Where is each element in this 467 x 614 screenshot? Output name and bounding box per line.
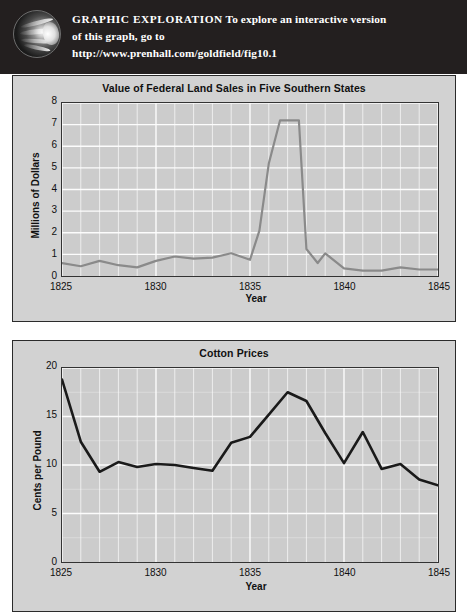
x-tick-cotton-prices-1840: 1840 (324, 567, 366, 578)
x-tick-cotton-prices-1835: 1835 (229, 567, 271, 578)
x-tick-cotton-prices-1845: 1845 (418, 567, 460, 578)
y-tick-land-sales-8: 8 (35, 95, 57, 106)
chart-panel-land-sales: Value of Federal Land Sales in Five Sout… (12, 75, 456, 322)
x-tick-land-sales-1840: 1840 (324, 281, 366, 292)
plot-area-land-sales (61, 102, 439, 277)
graphic-exploration-banner: GRAPHIC EXPLORATION To explore an intera… (0, 0, 467, 74)
y-tick-cotton-prices-10: 10 (35, 458, 57, 469)
y-tick-cotton-prices-0: 0 (35, 556, 57, 567)
y-tick-land-sales-0: 0 (35, 270, 57, 281)
x-tick-cotton-prices-1825: 1825 (40, 567, 82, 578)
banner-line-2: of this graph, go to (72, 28, 386, 45)
y-tick-land-sales-6: 6 (35, 139, 57, 150)
x-axis-label-land-sales: Year (35, 293, 467, 304)
banner-url[interactable]: http://www.prenhall.com/goldfield/fig10.… (72, 45, 386, 62)
x-tick-land-sales-1845: 1845 (418, 281, 460, 292)
x-tick-cotton-prices-1830: 1830 (135, 567, 177, 578)
globe-hand-icon (10, 7, 65, 62)
y-tick-land-sales-7: 7 (35, 117, 57, 128)
y-tick-cotton-prices-20: 20 (35, 360, 57, 371)
y-tick-land-sales-5: 5 (35, 161, 57, 172)
x-tick-land-sales-1825: 1825 (40, 281, 82, 292)
x-tick-land-sales-1835: 1835 (229, 281, 271, 292)
y-tick-cotton-prices-5: 5 (35, 507, 57, 518)
banner-line-1-rest: To explore an interactive version (223, 13, 387, 25)
chart-title-land-sales: Value of Federal Land Sales in Five Sout… (13, 76, 455, 94)
plot-area-cotton-prices (61, 367, 439, 563)
chart-area-land-sales: Millions of Dollars 012345678 1825183018… (13, 94, 455, 302)
chart-area-cotton-prices: Cents per Pound 05101520 182518301835184… (13, 359, 455, 597)
banner-text-block: GRAPHIC EXPLORATION To explore an intera… (72, 11, 386, 62)
y-tick-land-sales-2: 2 (35, 226, 57, 237)
y-tick-land-sales-1: 1 (35, 248, 57, 259)
y-tick-land-sales-4: 4 (35, 183, 57, 194)
banner-line-1: GRAPHIC EXPLORATION To explore an intera… (72, 11, 386, 28)
x-tick-land-sales-1830: 1830 (135, 281, 177, 292)
chart-panel-cotton-prices: Cotton Prices Cents per Pound 05101520 1… (12, 340, 456, 612)
chart-title-cotton-prices: Cotton Prices (13, 341, 455, 359)
banner-lead-label: GRAPHIC EXPLORATION (72, 13, 223, 25)
y-tick-cotton-prices-15: 15 (35, 409, 57, 420)
y-axis-label-land-sales: Millions of Dollars (30, 136, 41, 256)
y-tick-land-sales-3: 3 (35, 204, 57, 215)
x-axis-label-cotton-prices: Year (35, 581, 467, 592)
